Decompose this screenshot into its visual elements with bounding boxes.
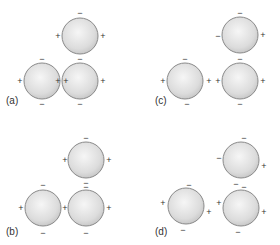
panel-b: −++−++−−−+−(b): [6, 133, 112, 238]
minus-charge-sign: −: [184, 99, 189, 109]
minus-charge-sign: −: [83, 228, 88, 238]
sphere: [223, 190, 259, 226]
plus-charge-sign: +: [260, 30, 265, 40]
minus-charge-sign: −: [40, 180, 45, 190]
minus-charge-sign: −: [186, 180, 191, 190]
minus-charge-sign: −: [235, 227, 240, 237]
plus-charge-sign: +: [55, 76, 60, 86]
sphere: [168, 188, 204, 224]
panel-c: −−+−++−−++−(c): [155, 8, 266, 109]
minus-charge-sign: −: [237, 8, 242, 18]
plus-charge-sign: +: [206, 207, 211, 217]
minus-charge-sign: −: [241, 182, 246, 192]
panel-label: (a): [6, 95, 18, 106]
minus-charge-sign: −: [39, 99, 44, 109]
minus-charge-sign: −: [77, 54, 82, 64]
plus-charge-sign: +: [55, 31, 60, 41]
panel-label: (c): [155, 95, 167, 106]
minus-charge-sign: −: [182, 54, 187, 64]
sphere: [222, 17, 258, 53]
dipole-spheres-diagram: −++−++−−++−(a)−−+−++−−++−(c)−++−++−−−+−(…: [0, 0, 280, 245]
plus-charge-sign: +: [160, 198, 165, 208]
plus-charge-sign: +: [63, 76, 68, 86]
plus-charge-sign: +: [261, 161, 266, 171]
panel-a: −++−++−−++−(a): [6, 8, 106, 109]
plus-charge-sign: +: [215, 76, 220, 86]
plus-charge-sign: +: [100, 76, 105, 86]
panel-label: (d): [155, 226, 167, 237]
plus-charge-sign: +: [100, 31, 105, 41]
plus-charge-sign: +: [260, 76, 265, 86]
plus-charge-sign: +: [206, 76, 211, 86]
plus-charge-sign: +: [106, 203, 111, 213]
plus-charge-sign: +: [106, 155, 111, 165]
sphere: [223, 142, 259, 178]
minus-charge-sign: −: [237, 99, 242, 109]
minus-charge-sign: −: [77, 8, 82, 18]
minus-charge-sign: −: [40, 228, 45, 238]
minus-charge-sign: −: [233, 179, 238, 189]
minus-charge-sign: −: [216, 153, 221, 163]
plus-charge-sign: +: [62, 203, 67, 213]
minus-charge-sign: −: [180, 225, 185, 235]
minus-charge-sign: −: [77, 99, 82, 109]
sphere: [62, 18, 98, 54]
plus-charge-sign: +: [62, 155, 67, 165]
plus-charge-sign: +: [261, 207, 266, 217]
plus-charge-sign: +: [17, 76, 22, 86]
plus-charge-sign: +: [18, 203, 23, 213]
plus-charge-sign: +: [160, 76, 165, 86]
panel-d: −−+−++−−−++−(d): [155, 133, 267, 237]
sphere: [167, 63, 203, 99]
minus-charge-sign: −: [39, 54, 44, 64]
minus-charge-sign: −: [83, 182, 88, 192]
sphere: [68, 190, 104, 226]
sphere: [68, 142, 104, 178]
minus-charge-sign: −: [83, 133, 88, 143]
minus-charge-sign: −: [237, 54, 242, 64]
minus-charge-sign: −: [215, 31, 220, 41]
panel-label: (b): [6, 226, 18, 237]
sphere: [222, 63, 258, 99]
minus-charge-sign: −: [241, 133, 246, 143]
plus-charge-sign: +: [216, 198, 221, 208]
sphere: [25, 190, 61, 226]
